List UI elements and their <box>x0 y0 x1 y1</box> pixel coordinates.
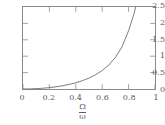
left-ticks <box>23 23 28 72</box>
x-axis-label-denominator: ω <box>79 113 86 121</box>
x-axis-label: Ω ω <box>0 103 165 121</box>
ytick-label-1: 1 <box>145 52 165 60</box>
chart-figure: 2.5 2 1.5 1 0.5 0 0 0.2 0.4 0.6 0.8 1 Ω … <box>0 0 165 125</box>
data-series-curve <box>23 7 136 89</box>
tick-marks-group <box>23 7 155 89</box>
xtick-label-0.4: 0.4 <box>64 94 88 102</box>
curve-layer <box>23 7 155 89</box>
ytick-label-1.5: 1.5 <box>145 36 165 44</box>
top-ticks <box>49 7 128 12</box>
xtick-label-0.6: 0.6 <box>90 94 114 102</box>
x-axis-label-fraction: Ω ω <box>79 103 86 121</box>
right-ticks <box>150 23 155 72</box>
ytick-label-0.5: 0.5 <box>145 69 165 77</box>
xtick-label-0: 0 <box>10 94 34 102</box>
ytick-label-2.5: 2.5 <box>145 2 165 10</box>
xtick-label-0.8: 0.8 <box>117 94 141 102</box>
xtick-label-1: 1 <box>144 94 165 102</box>
x-axis-label-numerator: Ω <box>79 103 86 111</box>
plot-area <box>22 6 156 90</box>
ytick-label-2: 2 <box>145 19 165 27</box>
xtick-label-0.2: 0.2 <box>37 94 61 102</box>
